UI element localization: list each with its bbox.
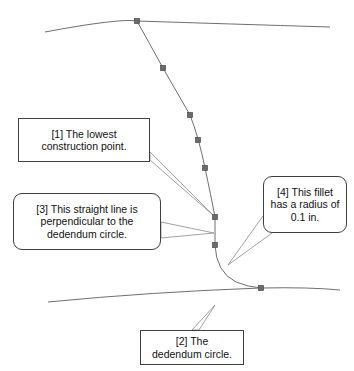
callout-2-line-1: [2] The [144, 335, 240, 347]
leader-callout-3 [161, 222, 214, 238]
construction-point-marker-lowest-construction-point[interactable] [213, 215, 218, 220]
construction-point-marker-profile-point-2[interactable] [161, 66, 166, 71]
construction-point-marker-tangency-point[interactable] [213, 243, 218, 248]
callout-3-line-1: [3] This straight line is [17, 203, 157, 215]
callout-dedendum-circle[interactable]: [2] The dedendum circle. [140, 330, 244, 365]
callout-1-line-2: construction point. [22, 140, 146, 152]
construction-point-marker-top-profile-point[interactable] [135, 19, 140, 24]
construction-point-marker-profile-point-5[interactable] [203, 166, 208, 171]
upper-dedendum-arc [45, 20, 330, 32]
callout-1-line-1: [1] The lowest [22, 128, 146, 140]
callout-fillet-radius[interactable]: [4] This fillet has a radius of 0.1 in. [263, 176, 347, 233]
construction-point-marker-fillet-end-point[interactable] [259, 286, 264, 291]
callout-3-line-2: perpendicular to the [17, 215, 157, 227]
leader-callout-2 [192, 305, 215, 330]
callout-lowest-construction-point[interactable]: [1] The lowest construction point. [18, 118, 150, 162]
leader-lines [150, 152, 272, 330]
callout-4-line-1: [4] This fillet [267, 186, 343, 198]
construction-point-marker-profile-point-4[interactable] [196, 138, 201, 143]
callout-perpendicular-straight-line[interactable]: [3] This straight line is perpendicular … [13, 193, 161, 250]
callout-2-line-2: dedendum circle. [144, 348, 240, 360]
callout-3-line-3: dedendum circle. [17, 228, 157, 240]
callout-4-line-3: 0.1 in. [267, 211, 343, 223]
callout-4-line-2: has a radius of [267, 198, 343, 210]
diagram-canvas: [1] The lowest construction point. [3] T… [0, 0, 354, 371]
construction-point-marker-profile-point-3[interactable] [188, 113, 193, 118]
lower-dedendum-arc [48, 288, 340, 302]
